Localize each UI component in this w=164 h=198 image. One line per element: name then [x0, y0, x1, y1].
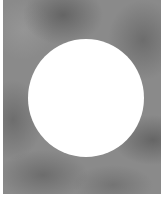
white-circle	[28, 39, 144, 157]
